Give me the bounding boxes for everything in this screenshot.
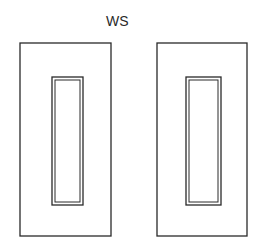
left-inner-frame-outer — [52, 77, 83, 205]
right-outer-frame — [157, 43, 247, 236]
right-panel — [157, 43, 247, 236]
left-panel — [20, 43, 111, 236]
left-outer-frame — [20, 43, 111, 236]
right-inner-frame-outer — [186, 77, 221, 205]
right-inner-frame-inner — [189, 80, 218, 202]
diagram-canvas — [0, 0, 266, 252]
left-inner-frame-inner — [55, 80, 80, 202]
